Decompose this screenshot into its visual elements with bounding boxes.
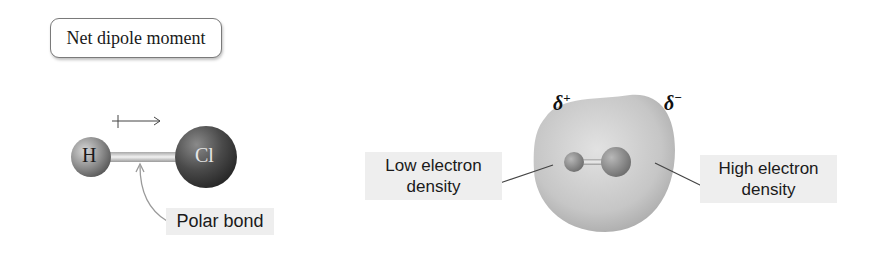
polar-bond-label: Polar bond bbox=[166, 208, 274, 235]
chlorine-label: Cl bbox=[195, 144, 214, 167]
small-chlorine-atom bbox=[601, 147, 631, 177]
diagram-graphics bbox=[0, 0, 875, 254]
low-electron-density-label: Low electron density bbox=[365, 152, 502, 200]
dipole-arrow-icon bbox=[112, 115, 160, 128]
polar-bond-text: Polar bond bbox=[176, 211, 263, 231]
delta-plus-label: δ+ bbox=[553, 90, 571, 115]
callout-arrow-icon bbox=[140, 166, 167, 221]
low-density-line2: density bbox=[371, 176, 496, 197]
high-density-line2: density bbox=[706, 179, 831, 200]
high-density-line1: High electron bbox=[706, 158, 831, 179]
hydrogen-label: H bbox=[82, 144, 96, 167]
small-hydrogen-atom bbox=[564, 152, 584, 172]
delta-minus-label: δ− bbox=[664, 90, 682, 115]
low-density-line1: Low electron bbox=[371, 155, 496, 176]
high-electron-density-label: High electron density bbox=[700, 155, 837, 203]
